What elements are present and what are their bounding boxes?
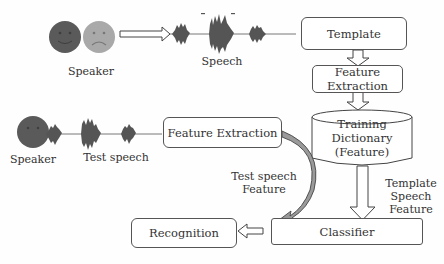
diagram-canvas: Speaker Speech Speaker Test speech Test … <box>0 0 444 264</box>
training-dictionary-line2: Dictionary <box>312 131 412 145</box>
sad-face-icon <box>83 21 115 53</box>
feature-extraction-top-box: Feature Extraction <box>312 65 403 93</box>
classifier-box: Classifier <box>271 218 423 245</box>
training-dictionary-line1: Training <box>312 117 412 131</box>
template-box-label: Template <box>327 27 381 41</box>
arrow-down-icon <box>350 166 375 220</box>
template-speech-feature-line3: Feature <box>380 203 442 216</box>
neutral-face-icon <box>17 116 49 148</box>
template-box: Template <box>301 17 407 50</box>
template-speech-feature-label: Template Speech Feature <box>380 177 442 216</box>
feature-extraction-top-line2: Extraction <box>327 79 388 93</box>
arrow-down-icon <box>347 92 369 110</box>
feature-extraction-mid-label: Feature Extraction <box>168 126 278 140</box>
speech-label: Speech <box>192 55 252 68</box>
test-speech-feature-line2: Feature <box>228 183 300 196</box>
speaker-label-bottom: Speaker <box>0 153 66 166</box>
test-speech-waveform-icon <box>46 118 162 150</box>
feature-extraction-mid-box: Feature Extraction <box>163 117 282 148</box>
test-speech-feature-label: Test speech Feature <box>228 170 300 196</box>
arrow-right-icon <box>120 27 170 41</box>
happy-face-icon <box>49 21 81 53</box>
recognition-box: Recognition <box>131 218 237 248</box>
speaker-label-top: Speaker <box>56 65 126 78</box>
template-speech-feature-line1: Template <box>380 177 442 190</box>
training-dictionary-label: Training Dictionary (Feature) <box>312 117 412 159</box>
feature-extraction-top-line1: Feature <box>335 65 380 79</box>
test-speech-feature-line1: Test speech <box>228 170 300 183</box>
arrow-down-icon <box>347 50 369 66</box>
classifier-label: Classifier <box>320 225 375 239</box>
speech-waveform-icon <box>170 13 296 54</box>
recognition-label: Recognition <box>149 226 219 240</box>
test-speech-label: Test speech <box>80 151 152 164</box>
training-dictionary-line3: (Feature) <box>312 145 412 159</box>
template-speech-feature-line2: Speech <box>380 190 442 203</box>
arrow-left-icon <box>238 224 263 238</box>
